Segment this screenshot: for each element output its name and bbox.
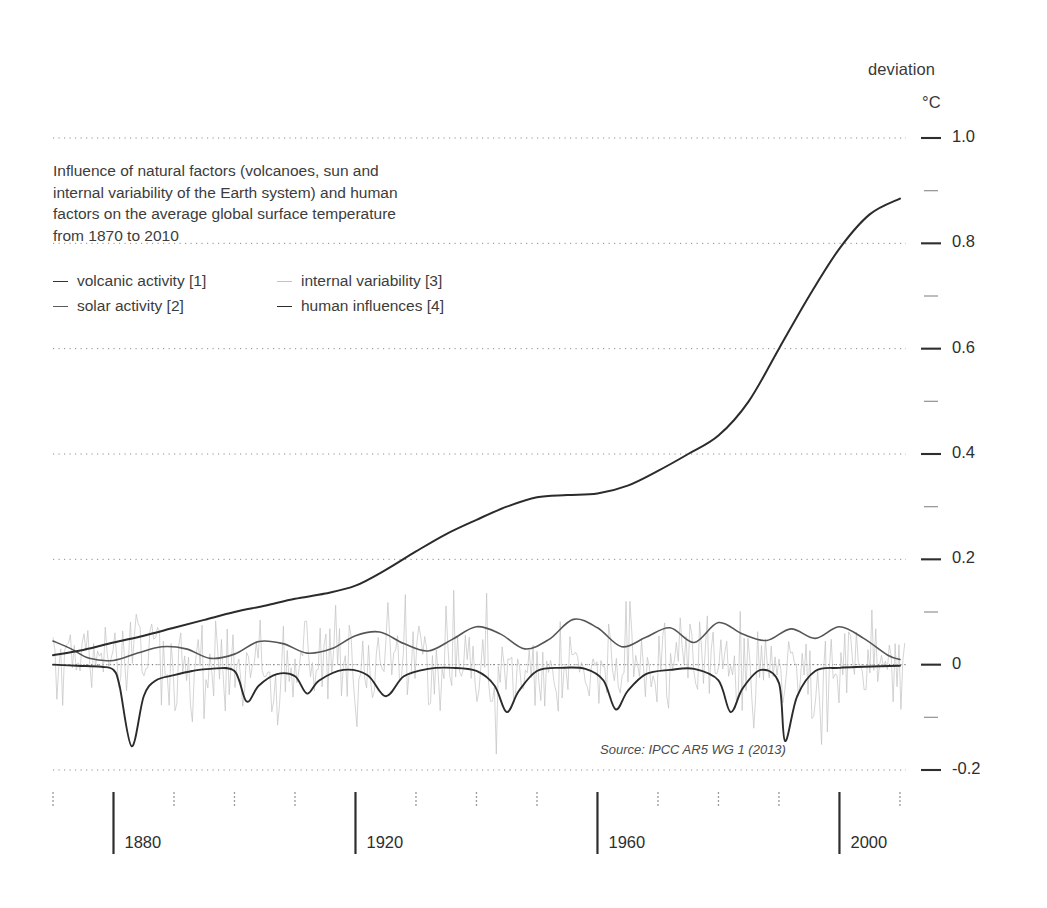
series-human-influences [53, 199, 900, 656]
x-tick-label: 1920 [366, 833, 403, 852]
plot-canvas [0, 0, 1047, 908]
y-tick-label: 0.8 [952, 232, 1012, 251]
source-attribution: Source: IPCC AR5 WG 1 (2013) [600, 742, 786, 757]
x-tick-marks [53, 792, 900, 854]
series-volcanic-activity [53, 665, 900, 747]
y-tick-label: 0.4 [952, 443, 1012, 462]
y-tick-label: 1.0 [952, 127, 1012, 146]
y-gridlines [53, 138, 906, 770]
climate-attribution-figure: deviation °C Influence of natural factor… [0, 0, 1047, 908]
y-tick-marks [921, 138, 941, 770]
y-tick-label: 0.6 [952, 338, 1012, 357]
y-tick-label: 0.2 [952, 548, 1012, 567]
y-tick-label: -0.2 [952, 759, 1012, 778]
y-tick-label: 0 [952, 654, 1012, 673]
x-tick-label: 2000 [850, 833, 887, 852]
x-tick-label: 1880 [124, 833, 161, 852]
x-tick-label: 1960 [608, 833, 645, 852]
